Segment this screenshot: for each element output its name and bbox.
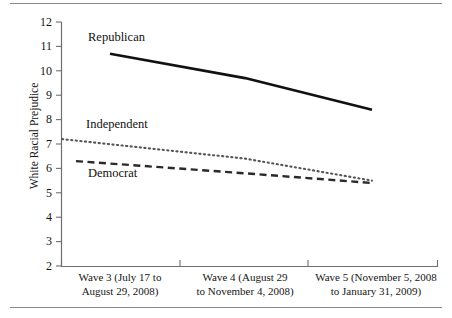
- x-tick-label-wave-3-line2: August 29, 2008): [56, 284, 184, 298]
- x-tick-label-wave-5-line2: to January 31, 2009): [305, 284, 447, 298]
- x-tick-label-wave-4-line1: Wave 4 (August 29: [178, 270, 312, 284]
- x-tick-label-wave-3: Wave 3 (July 17 to August 29, 2008): [56, 270, 184, 298]
- x-tick-label-wave-4-line2: to November 4, 2008): [178, 284, 312, 298]
- series-label-independent: Independent: [86, 117, 148, 132]
- x-tick-label-wave-4: Wave 4 (August 29 to November 4, 2008): [178, 270, 312, 298]
- x-tick-label-wave-5-line1: Wave 5 (November 5, 2008: [305, 270, 447, 284]
- series-line-republican: [110, 54, 372, 110]
- series-label-republican: Republican: [88, 30, 145, 45]
- x-tick-label-wave-3-line1: Wave 3 (July 17 to: [56, 270, 184, 284]
- x-tick-label-wave-5: Wave 5 (November 5, 2008 to January 31, …: [305, 270, 447, 298]
- figure-container: White Racial Prejudice 12 11 10 9 8 7 6 …: [0, 0, 452, 318]
- series-label-democrat: Democrat: [88, 166, 137, 181]
